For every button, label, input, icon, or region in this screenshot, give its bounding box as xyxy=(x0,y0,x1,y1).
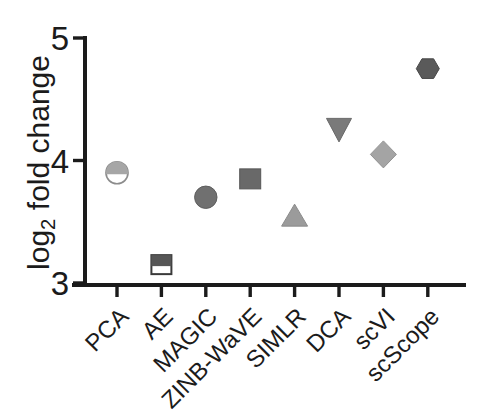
x-tick-label-dca: DCA xyxy=(301,302,356,357)
marker-zinb-wave xyxy=(240,169,261,189)
marker-scvi-shape xyxy=(370,141,396,168)
marker-scscope-shape xyxy=(416,59,439,79)
marker-scscope xyxy=(416,59,439,79)
marker-simlr xyxy=(282,204,308,226)
y-axis-label: log2 fold change xyxy=(22,55,59,270)
chart-canvas: 543PCAAEMAGICZINB-WaVESIMLRDCAscVIscScop… xyxy=(0,0,489,412)
marker-magic xyxy=(195,186,217,208)
marker-ae xyxy=(151,255,171,274)
marker-dca-shape xyxy=(327,118,352,142)
marker-scvi xyxy=(370,141,396,168)
x-tick-label-pca: PCA xyxy=(80,302,134,356)
marker-pca xyxy=(106,161,128,183)
marker-simlr-shape xyxy=(282,204,308,226)
marker-zinb-wave-shape xyxy=(240,169,261,189)
scatter-figure: 543PCAAEMAGICZINB-WaVESIMLRDCAscVIscScop… xyxy=(0,0,489,412)
marker-dca xyxy=(327,118,352,142)
marker-ae-top-half xyxy=(151,255,171,266)
y-tick-label-5: 5 xyxy=(51,20,69,57)
marker-pca-top-half xyxy=(106,161,128,174)
marker-magic-shape xyxy=(195,186,217,208)
